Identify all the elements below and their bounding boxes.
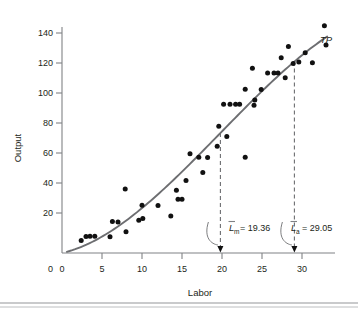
pointer-arc-lm [207, 222, 218, 245]
x-tick-label-5: 5 [99, 264, 104, 274]
data-point [174, 188, 179, 193]
y-tick-label-0: 0 [48, 264, 53, 274]
data-point [291, 61, 296, 66]
x-tick-label-10: 10 [137, 264, 147, 274]
data-point [243, 87, 248, 92]
data-point [124, 229, 129, 234]
x-tick-label-30: 30 [297, 264, 307, 274]
reference-line-lm [207, 133, 224, 252]
y-tick-label-40: 40 [43, 178, 53, 188]
data-point [237, 102, 242, 107]
data-point [286, 44, 291, 49]
y-tick-label-20: 20 [43, 208, 53, 218]
x-axis-title: Labor [188, 287, 212, 298]
data-point [116, 219, 121, 224]
data-point [205, 155, 210, 160]
data-point [140, 216, 145, 221]
scatter-points [79, 23, 329, 243]
x-tick-label-20: 20 [217, 264, 227, 274]
x-tick-label-15: 15 [177, 264, 187, 274]
data-point [228, 102, 233, 107]
annotation-la-value: = 29.05 [302, 223, 332, 233]
data-point [168, 213, 173, 218]
data-point [259, 87, 264, 92]
data-point [180, 197, 185, 202]
data-point [216, 124, 221, 129]
arrowhead-la [291, 246, 297, 253]
data-point [283, 75, 288, 80]
annotation-lm: L m = 19.36 [229, 222, 271, 236]
data-point [252, 103, 257, 108]
data-point [265, 70, 270, 75]
annotation-la: L a = 29.05 [291, 222, 333, 236]
y-tick-label-140: 140 [38, 28, 53, 38]
y-tick-label-100: 100 [38, 88, 53, 98]
data-point [221, 102, 226, 107]
data-point [200, 170, 205, 175]
data-point [250, 66, 255, 71]
data-point [184, 178, 189, 183]
chart-figure: Output 140 120 100 80 60 40 20 0 0 5 10 … [0, 0, 358, 315]
data-point [296, 59, 301, 64]
data-point [188, 151, 193, 156]
x-tick-label-25: 25 [257, 264, 267, 274]
data-point [156, 203, 161, 208]
data-point [196, 155, 201, 160]
data-point [276, 70, 281, 75]
data-point [224, 134, 229, 139]
data-point [88, 234, 93, 239]
data-point [110, 219, 115, 224]
data-point [322, 23, 327, 28]
annotation-la-subscript: a [296, 228, 300, 235]
y-tick-label-80: 80 [43, 118, 53, 128]
data-point [123, 186, 128, 191]
y-tick-label-60: 60 [43, 148, 53, 158]
data-point [140, 203, 145, 208]
data-point [252, 97, 257, 102]
arrowhead-lm [217, 246, 223, 253]
data-point [215, 144, 220, 149]
data-point [79, 238, 84, 243]
data-point [303, 50, 308, 55]
y-tick-label-120: 120 [38, 58, 53, 68]
data-point [108, 234, 113, 239]
data-point [92, 234, 97, 239]
annotation-lm-value: = 19.36 [240, 223, 270, 233]
x-tick-label-0: 0 [59, 264, 64, 274]
y-axis-title: Output [12, 133, 23, 162]
tp-curve [67, 37, 327, 252]
data-point [243, 155, 248, 160]
data-point [279, 55, 284, 60]
annotation-lm-subscript: m [234, 228, 239, 235]
tp-curve-label: TP [320, 34, 333, 45]
data-point [310, 60, 315, 65]
